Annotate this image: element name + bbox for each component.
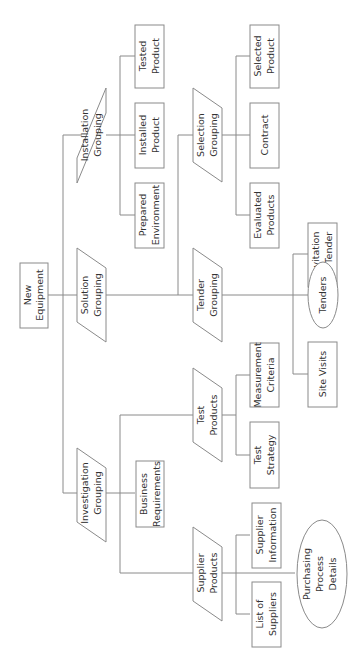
node-label: Information: [267, 508, 278, 563]
node-label: Strategy: [265, 434, 276, 475]
node-test-products: Test Products: [193, 368, 222, 462]
node-label: Environment: [150, 184, 161, 245]
node-label: Products: [265, 194, 276, 235]
node-tender-grouping: Tender Grouping: [193, 248, 222, 342]
node-purchasing-process-details: Purchasing Process Details: [297, 520, 347, 628]
node-contract: Contract: [250, 103, 279, 168]
node-installation-grouping: Installation Grouping: [77, 88, 106, 183]
node-selection-grouping: Selection Grouping: [193, 88, 222, 182]
node-label: Installation: [79, 109, 90, 162]
node-label: Measurement: [252, 342, 263, 407]
node-label: Details: [327, 557, 338, 590]
process-breakdown-diagram: New Equipment Installation Grouping Solu…: [0, 0, 361, 660]
node-label: Selection: [195, 113, 206, 157]
node-tenders: Tenders: [308, 262, 338, 328]
node-installed-product: Installed Product: [135, 103, 164, 168]
node-label: Grouping: [208, 113, 219, 157]
node-solution-grouping: Solution Grouping: [77, 248, 106, 342]
node-label: Tender: [195, 279, 206, 312]
node-label: Grouping: [92, 273, 103, 317]
node-label: Purchasing: [301, 548, 312, 600]
node-list-of-suppliers: List of Suppliers: [252, 582, 281, 647]
node-label: Process: [314, 556, 325, 592]
node-label: Suppliers: [267, 592, 278, 636]
node-site-visits: Site Visits: [308, 342, 337, 407]
node-label: Contract: [259, 114, 270, 155]
node-label: Products: [208, 394, 219, 435]
node-label: Grouping: [92, 113, 103, 157]
node-label: Site Visits: [317, 351, 328, 398]
node-label: Selected: [252, 35, 263, 76]
node-new-equipment: New Equipment: [20, 263, 48, 328]
node-supplier-products: Supplier Products: [193, 527, 222, 621]
node-test-strategy: Test Strategy: [250, 422, 279, 488]
node-label: New: [22, 284, 33, 305]
node-label: Business: [138, 473, 149, 515]
node-label: Investigation: [79, 462, 90, 524]
node-label: Tested: [137, 41, 148, 73]
node-label: Installed: [137, 115, 148, 155]
node-label: Product: [265, 38, 276, 74]
node-label: Test: [252, 445, 263, 465]
node-supplier-information: Supplier Information: [252, 503, 281, 568]
node-label: Test: [195, 405, 206, 425]
node-label: Solution: [79, 276, 90, 315]
node-business-requirements: Business Requirements: [136, 461, 164, 527]
node-label: Product: [150, 117, 161, 153]
node-label: Product: [150, 38, 161, 74]
node-label: Grouping: [92, 471, 103, 515]
node-label: Products: [208, 552, 219, 593]
node-measurement-criteria: Measurement Criteria: [250, 342, 279, 407]
node-selected-product: Selected Product: [250, 25, 279, 88]
node-label: Evaluated: [252, 191, 263, 239]
node-label: List of: [254, 599, 265, 628]
node-label: Criteria: [265, 357, 276, 392]
node-label: Supplier: [195, 553, 206, 592]
node-label: Supplier: [254, 515, 265, 554]
node-label: Equipment: [34, 269, 45, 321]
node-tested-product: Tested Product: [135, 25, 164, 88]
node-label: Tenders: [317, 277, 328, 315]
node-evaluated-products: Evaluated Products: [250, 183, 279, 248]
node-prepared-environment: Prepared Environment: [135, 183, 164, 248]
node-investigation-grouping: Investigation Grouping: [77, 448, 106, 542]
node-label: Grouping: [208, 273, 219, 317]
node-label: Prepared: [137, 194, 148, 237]
node-label: Requirements: [151, 461, 162, 527]
